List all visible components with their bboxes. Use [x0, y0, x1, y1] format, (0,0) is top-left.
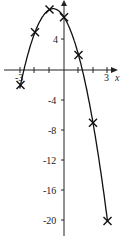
y-tick-neg16: -16	[43, 185, 56, 196]
y-tick-neg8: -8	[48, 125, 56, 136]
y-axis	[61, 0, 67, 236]
y-tick-neg12: -12	[43, 155, 56, 166]
y-tick-4: 4	[53, 34, 58, 45]
parabola-chart: -3 3 x 4 -4 -8 -12 -16 -20	[0, 0, 125, 239]
y-tick-neg4: -4	[48, 95, 56, 106]
x-tick-3: 3	[104, 72, 109, 83]
x-axis-label: x	[114, 72, 120, 83]
y-tick-neg20: -20	[43, 215, 56, 226]
